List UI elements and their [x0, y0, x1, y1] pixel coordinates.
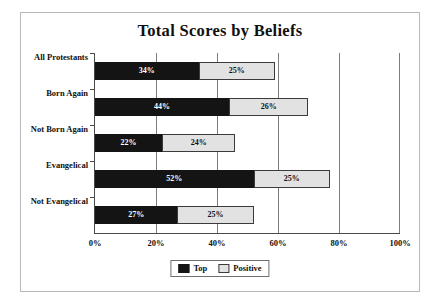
legend-item-positive[interactable]: Positive	[218, 264, 261, 273]
x-tick-label-40: 40%	[197, 238, 237, 248]
bar-value-label: 34%	[139, 67, 155, 75]
bar-group-not-evangelical: 27% 25%	[95, 206, 254, 224]
plot-area: All Protestants 34% 25% Born Again 44% 2…	[94, 53, 400, 234]
bar-segment-top[interactable]: 52%	[95, 170, 254, 188]
bar-value-label: 44%	[154, 103, 170, 111]
x-tick-label-0: 0%	[75, 238, 115, 248]
bar-segment-positive[interactable]: 24%	[162, 134, 235, 152]
legend-label-positive: Positive	[233, 264, 261, 273]
bar-segment-positive[interactable]: 26%	[229, 98, 308, 116]
legend-swatch-positive-icon	[218, 264, 229, 273]
chart-figure: Total Scores by Beliefs All Protestants …	[20, 12, 420, 292]
chart-row: Not Evangelical 27% 25%	[95, 197, 400, 233]
bar-value-label: 52%	[166, 175, 182, 183]
legend-item-top[interactable]: Top	[178, 264, 207, 273]
bar-value-label: 22%	[121, 139, 137, 147]
bar-segment-positive[interactable]: 25%	[254, 170, 330, 188]
chart-row: Evangelical 52% 25%	[95, 161, 400, 197]
category-label-all-protestants: All Protestants	[0, 53, 95, 62]
legend-swatch-top-icon	[178, 264, 189, 273]
bar-group-born-again: 44% 26%	[95, 98, 308, 116]
bar-value-label: 24%	[191, 139, 207, 147]
bar-segment-positive[interactable]: 25%	[177, 206, 253, 224]
legend-label-top: Top	[193, 264, 207, 273]
bar-value-label: 25%	[284, 175, 300, 183]
bar-segment-top[interactable]: 44%	[95, 98, 229, 116]
x-tick-label-60: 60%	[258, 238, 298, 248]
bar-value-label: 27%	[128, 211, 144, 219]
bar-value-label: 25%	[229, 67, 245, 75]
bar-group-all-protestants: 34% 25%	[95, 62, 275, 80]
bar-segment-positive[interactable]: 25%	[199, 62, 275, 80]
bar-segment-top[interactable]: 27%	[95, 206, 177, 224]
category-label-not-born-again: Not Born Again	[0, 125, 95, 134]
category-label-not-evangelical: Not Evangelical	[0, 197, 95, 206]
x-tick-label-100: 100%	[380, 238, 420, 248]
bar-value-label: 26%	[261, 103, 277, 111]
bar-value-label: 25%	[208, 211, 224, 219]
x-tick-label-80: 80%	[319, 238, 359, 248]
chart-title: Total Scores by Beliefs	[21, 21, 419, 41]
bar-segment-top[interactable]: 34%	[95, 62, 199, 80]
chart-row: Not Born Again 22% 24%	[95, 125, 400, 161]
bar-segment-top[interactable]: 22%	[95, 134, 162, 152]
x-tick-label-20: 20%	[136, 238, 176, 248]
chart-row: Born Again 44% 26%	[95, 89, 400, 125]
category-label-born-again: Born Again	[0, 89, 95, 98]
bar-group-not-born-again: 22% 24%	[95, 134, 235, 152]
bar-group-evangelical: 52% 25%	[95, 170, 330, 188]
chart-legend: Top Positive	[170, 260, 269, 277]
category-label-evangelical: Evangelical	[0, 161, 95, 170]
chart-row: All Protestants 34% 25%	[95, 53, 400, 89]
